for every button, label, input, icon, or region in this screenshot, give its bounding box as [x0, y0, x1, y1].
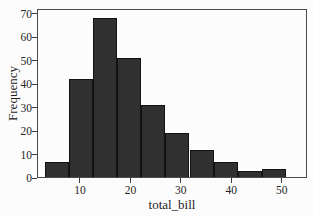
- y-tick-mark: [32, 178, 37, 179]
- y-tick-mark: [32, 13, 37, 14]
- y-tick-mark: [32, 154, 37, 155]
- x-tick-mark: [130, 178, 131, 183]
- histogram-bar: [214, 162, 238, 178]
- x-tick-label: 50: [270, 184, 294, 196]
- histogram-bar: [69, 79, 93, 178]
- y-tick-mark: [32, 107, 37, 108]
- x-tick-label: 10: [68, 184, 92, 196]
- x-tick-label: 20: [118, 184, 142, 196]
- histogram-bar: [262, 169, 286, 178]
- x-tick-mark: [231, 178, 232, 183]
- histogram-figure: 0102030405060701020304050 Frequency tota…: [0, 0, 313, 217]
- histogram-bar: [238, 171, 262, 178]
- histogram-bar: [165, 133, 189, 178]
- histogram-bar: [93, 18, 117, 178]
- histogram-bar: [45, 162, 69, 178]
- y-tick-mark: [32, 84, 37, 85]
- y-tick-mark: [32, 131, 37, 132]
- x-tick-mark: [281, 178, 282, 183]
- y-tick-mark: [32, 60, 37, 61]
- plot-area: [37, 9, 307, 178]
- x-tick-label: 30: [169, 184, 193, 196]
- histogram-bar: [190, 150, 214, 178]
- x-tick-mark: [79, 178, 80, 183]
- histogram-bar: [141, 105, 165, 178]
- x-tick-mark: [180, 178, 181, 183]
- x-axis-title: total_bill: [37, 198, 307, 211]
- y-tick-mark: [32, 37, 37, 38]
- histogram-bar: [117, 58, 141, 178]
- y-axis-title: Frequency: [6, 9, 19, 178]
- x-tick-label: 40: [219, 184, 243, 196]
